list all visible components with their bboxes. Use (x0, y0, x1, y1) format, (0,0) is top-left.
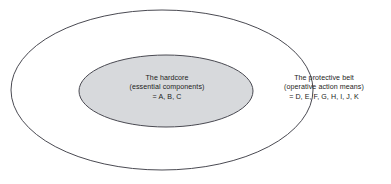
hardcore-label-line-2: (essential components) (104, 83, 230, 92)
hardcore-label: The hardcore (essential components) = A,… (104, 74, 230, 102)
venn-diagram: The hardcore (essential components) = A,… (0, 0, 391, 184)
protective-belt-label: The protective belt (operative action me… (262, 74, 386, 102)
protective-belt-label-line-3: = D, E, F, G, H, I, J, K (262, 93, 386, 102)
hardcore-label-line-1: The hardcore (104, 74, 230, 83)
protective-belt-label-line-2: (operative action means) (262, 83, 386, 92)
hardcore-label-line-3: = A, B, C (104, 93, 230, 102)
protective-belt-label-line-1: The protective belt (262, 74, 386, 83)
